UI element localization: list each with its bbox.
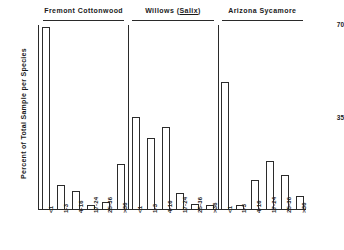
x-axis-tick-label: 25-36: [107, 197, 113, 213]
bar: [147, 138, 155, 209]
x-axis-tick-label: <1: [48, 206, 54, 213]
x-axis-tick-label: >36: [301, 202, 307, 213]
group-header: Fremont Cottonwood: [43, 7, 124, 21]
x-axis-tick-label: 17-24: [182, 197, 188, 213]
bar: [42, 27, 50, 209]
bar: [132, 117, 140, 210]
x-axis-tick-label: 4-16: [78, 200, 84, 213]
x-axis-tick-label: 25-36: [286, 197, 292, 213]
y-axis-title: Percent of Total Sample per Species: [20, 29, 27, 199]
x-axis-tick-label: <1: [227, 206, 233, 213]
group-header: Arizona Sycamore: [222, 7, 303, 21]
x-axis-tick-label: >36: [212, 202, 218, 213]
bar: [221, 82, 229, 209]
group-separator: [128, 25, 129, 209]
x-axis-tick-label: 4-16: [167, 200, 173, 213]
x-axis-tick-label: 25-36: [197, 197, 203, 213]
bar: [162, 127, 170, 209]
x-axis-tick-label: 4-16: [256, 200, 262, 213]
x-axis-tick-label: 17-24: [271, 197, 277, 213]
chart-figure: Percent of Total Sample per Species 70 3…: [0, 0, 344, 250]
x-axis-tick-label: 17-24: [93, 197, 99, 213]
x-axis-tick-label: 1-3: [63, 204, 69, 213]
group-header-genus: Salix: [179, 7, 198, 14]
x-axis-tick-label: 1-3: [241, 204, 247, 213]
plot-area: Fremont CottonwoodWillows (Salix)Arizona…: [38, 25, 306, 210]
y-axis-tick-35: 35: [308, 114, 344, 121]
x-axis-tick-label: >36: [122, 202, 128, 213]
group-header: Willows (Salix): [132, 7, 213, 21]
y-axis-tick-70: 70: [308, 21, 344, 28]
x-axis-tick-label: <1: [137, 206, 143, 213]
x-axis-tick-label: 1-3: [152, 204, 158, 213]
group-separator: [218, 25, 219, 209]
